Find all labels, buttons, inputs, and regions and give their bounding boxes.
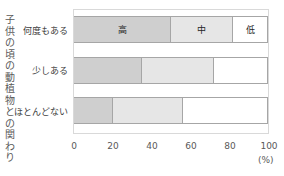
x-tick-0: 0 [71, 141, 77, 151]
segment-mid [113, 97, 183, 124]
segment-mid: 中 [171, 16, 233, 43]
segment-low: 低 [233, 16, 268, 43]
x-tick-60: 60 [185, 141, 196, 151]
x-tick-100: 100 [260, 141, 277, 151]
x-axis-unit: (%) [258, 155, 274, 165]
x-tick-20: 20 [107, 141, 118, 151]
segment-mid [142, 57, 214, 84]
segment-high [74, 57, 142, 84]
bar-often: 高 中 低 [74, 16, 268, 43]
category-label-rarely: ほとんどない [14, 105, 68, 118]
plot-area: 高 中 低 [73, 9, 269, 134]
segment-low [183, 97, 268, 124]
segment-low [214, 57, 268, 84]
y-axis-title: 子供の頃の動植物との関わり [3, 14, 17, 164]
segment-high [74, 97, 113, 124]
segment-high: 高 [74, 16, 171, 43]
bar-sometimes [74, 57, 268, 84]
x-tick-80: 80 [224, 141, 235, 151]
category-label-sometimes: 少しある [32, 64, 68, 77]
bar-rarely [74, 97, 268, 124]
x-tick-40: 40 [146, 141, 157, 151]
category-label-often: 何度もある [23, 24, 68, 37]
